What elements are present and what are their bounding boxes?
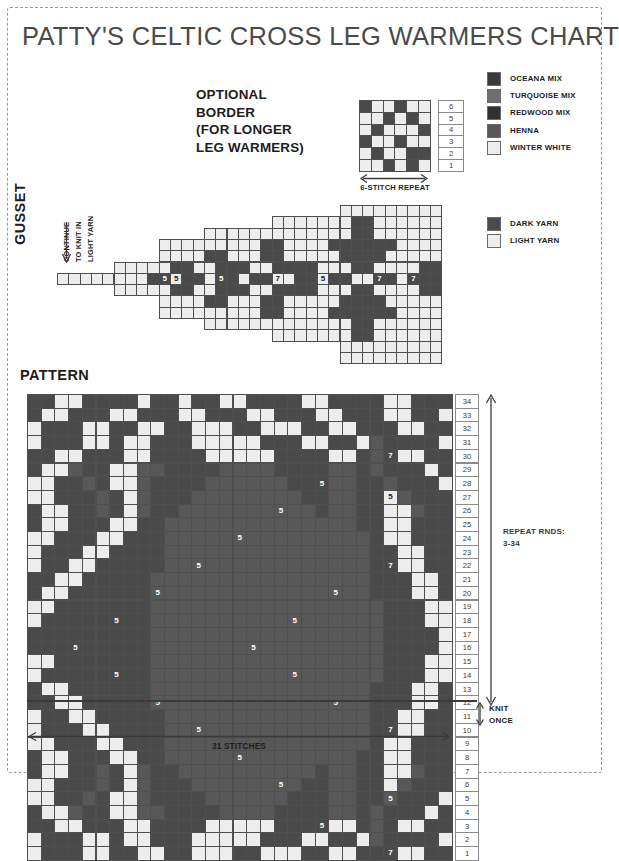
pattern-cell	[342, 750, 357, 765]
pattern-cell	[219, 408, 234, 423]
pattern-cell	[411, 832, 426, 847]
pattern-cell	[370, 476, 385, 491]
pattern-cell	[233, 421, 248, 436]
pattern-cell	[150, 805, 165, 820]
pattern-cell	[424, 668, 439, 683]
pattern-cell	[27, 613, 42, 628]
pattern-cell	[301, 449, 316, 464]
pattern-cell	[274, 832, 289, 847]
pattern-cell	[41, 463, 56, 478]
pattern-cell	[137, 778, 152, 793]
pattern-cell	[96, 641, 111, 656]
pattern-cell	[411, 613, 426, 628]
gusset-chart: 5557577	[57, 205, 441, 363]
pattern-cell	[301, 463, 316, 478]
pattern-cell	[68, 654, 83, 669]
pattern-cell	[219, 504, 234, 519]
yarn-legend-label: REDWOOD MIX	[510, 108, 571, 117]
pattern-cell	[260, 421, 275, 436]
pattern-cell	[260, 572, 275, 587]
pattern-row-number: 20	[455, 586, 479, 601]
pattern-cell	[82, 778, 97, 793]
pattern-cell	[68, 531, 83, 546]
gusset-cell	[430, 352, 442, 364]
pattern-cell	[150, 421, 165, 436]
pattern-cell	[411, 408, 426, 423]
pattern-cell	[328, 449, 343, 464]
pattern-cell	[96, 558, 111, 573]
pattern-cell	[109, 846, 124, 861]
pattern-cell	[123, 682, 138, 697]
pattern-cell	[397, 709, 412, 724]
pattern-cell	[191, 613, 206, 628]
pattern-cell	[342, 805, 357, 820]
pattern-cell	[424, 435, 439, 450]
pattern-cell	[370, 531, 385, 546]
knit-once-arrow-icon	[474, 702, 486, 726]
pattern-cell	[383, 421, 398, 436]
pattern-cell	[370, 558, 385, 573]
pattern-cell	[150, 764, 165, 779]
pattern-cell	[342, 490, 357, 505]
pattern-cell	[370, 394, 385, 409]
pattern-cell	[82, 600, 97, 615]
pattern-cell	[356, 517, 371, 532]
pattern-cell	[68, 805, 83, 820]
pattern-cell	[191, 682, 206, 697]
knit-once-line-2: ONCE	[489, 715, 513, 727]
pattern-cell	[438, 394, 453, 409]
pattern-cell	[123, 435, 138, 450]
pattern-cell	[397, 463, 412, 478]
pattern-row-number: 14	[455, 668, 479, 683]
pattern-cell	[356, 572, 371, 587]
pattern-cell: 5	[109, 668, 124, 683]
pattern-cell	[68, 476, 83, 491]
pattern-cell	[301, 791, 316, 806]
pattern-cell	[219, 449, 234, 464]
pattern-cell	[233, 545, 248, 560]
pattern-cell	[328, 490, 343, 505]
pattern-cell	[164, 545, 179, 560]
pattern-cell	[383, 750, 398, 765]
pattern-cell	[123, 504, 138, 519]
pattern-cell	[233, 504, 248, 519]
pattern-cell	[315, 668, 330, 683]
pattern-cell	[246, 421, 261, 436]
pattern-cell	[424, 517, 439, 532]
pattern-cell	[246, 490, 261, 505]
pattern-cell	[438, 613, 453, 628]
pattern-cell	[96, 846, 111, 861]
pattern-cell	[424, 408, 439, 423]
pattern-cell	[397, 682, 412, 697]
pattern-cell	[356, 819, 371, 834]
pattern-cell	[342, 421, 357, 436]
pattern-cell	[246, 682, 261, 697]
pattern-cell	[178, 586, 193, 601]
pattern-cell	[383, 654, 398, 669]
pattern-cell	[424, 709, 439, 724]
pattern-row-number: 30	[455, 449, 479, 464]
pattern-cell	[219, 517, 234, 532]
pattern-cell	[137, 449, 152, 464]
pattern-cell	[54, 750, 69, 765]
pattern-cell	[438, 695, 453, 710]
pattern-cell	[301, 600, 316, 615]
pattern-cell	[191, 778, 206, 793]
pattern-cell	[356, 682, 371, 697]
pattern-cell	[205, 778, 220, 793]
pattern-cell	[137, 613, 152, 628]
pattern-cell	[315, 764, 330, 779]
pattern-cell	[41, 654, 56, 669]
pattern-cell	[123, 805, 138, 820]
pattern-cell	[41, 435, 56, 450]
pattern-cell	[150, 449, 165, 464]
pattern-cell	[301, 709, 316, 724]
pattern-cell	[397, 627, 412, 642]
pattern-cell	[96, 832, 111, 847]
pattern-cell	[178, 545, 193, 560]
pattern-cell	[411, 531, 426, 546]
pattern-cell	[219, 490, 234, 505]
pattern-cell	[411, 668, 426, 683]
pattern-cell	[109, 463, 124, 478]
pattern-cell	[233, 586, 248, 601]
